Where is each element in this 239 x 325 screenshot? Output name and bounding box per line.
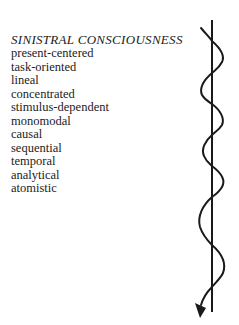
helix-arrow-figure (0, 0, 239, 325)
